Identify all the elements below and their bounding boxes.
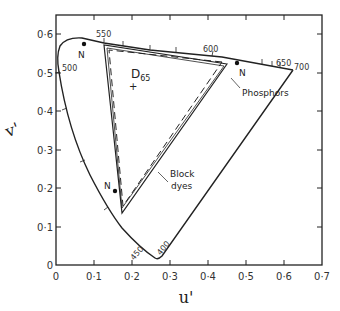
y-tick-label: 0·4 [37, 106, 53, 117]
block-dyes-arrow [158, 172, 168, 182]
neutral-label: N [104, 181, 111, 191]
neutral-point [82, 42, 86, 46]
block-dyes-label-1: Block [170, 169, 195, 179]
plot-frame [56, 15, 322, 265]
x-tick-label: 0·1 [86, 271, 102, 282]
y-axis-title: v' [2, 119, 22, 142]
y-tick-label: 0·2 [37, 183, 53, 194]
block-dye-gamut [109, 50, 222, 206]
neutral-point [113, 189, 117, 193]
x-ticks [94, 15, 284, 265]
wavelength-600: 600 [203, 45, 218, 54]
wavelength-650: 650 [276, 59, 291, 68]
wavelength-400: 400 [155, 239, 172, 256]
phosphor-gamut-inner [107, 48, 224, 208]
x-tick-label: 0·2 [124, 271, 140, 282]
block-dyes-label-2: dyes [171, 181, 193, 191]
x-tick-label: 0 [53, 271, 59, 282]
wavelength-550: 550 [96, 30, 111, 39]
x-tick-label: 0·5 [238, 271, 254, 282]
phosphors-label: Phosphors [242, 88, 289, 98]
phosphors-arrow [231, 78, 240, 88]
x-tick-label: 0·3 [162, 271, 178, 282]
wavelength-700: 700 [294, 63, 309, 72]
chromaticity-diagram: 0 0·1 0·2 0·3 0·4 0·5 0·6 0·7 0 0·1 0·2 … [0, 0, 340, 311]
wavelength-450: 450 [129, 245, 146, 262]
y-tick-label: 0·1 [37, 222, 53, 233]
y-tick-label: 0·6 [37, 29, 53, 40]
wavelength-500: 500 [62, 64, 77, 73]
x-tick-label: 0·4 [200, 271, 216, 282]
y-tick-label: 0·3 [37, 145, 53, 156]
y-tick-label: 0·5 [37, 68, 53, 79]
spectral-locus [58, 38, 293, 259]
x-tick-label: 0·6 [276, 271, 292, 282]
phosphor-gamut [104, 45, 227, 213]
neutral-point [235, 61, 239, 65]
x-tick-label: 0·7 [314, 271, 330, 282]
y-tick-label-origin: 0 [47, 260, 53, 271]
neutral-label: N [78, 50, 85, 60]
x-axis-title: u' [179, 288, 194, 307]
locus-ticks [55, 38, 280, 210]
d65-marker: + [129, 81, 137, 92]
neutral-label: N [239, 68, 246, 78]
